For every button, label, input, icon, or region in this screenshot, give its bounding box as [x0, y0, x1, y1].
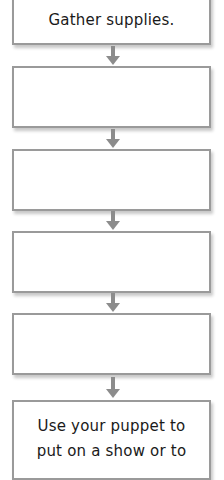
down-arrow-icon: [106, 293, 120, 313]
step-6-label: Use your puppet to put on a show or to: [37, 414, 187, 464]
down-arrow-icon: [106, 129, 120, 149]
down-arrow-icon: [106, 46, 120, 66]
down-arrow-icon: [106, 377, 120, 397]
step-box-1: Gather supplies.: [12, 0, 211, 45]
step-1-label: Gather supplies.: [48, 8, 174, 33]
step-box-4[interactable]: [12, 231, 211, 293]
step-6-line-2: put on a show or to: [37, 439, 187, 464]
step-6-line-1: Use your puppet to: [37, 414, 187, 439]
step-box-3[interactable]: [12, 149, 211, 211]
step-box-6: Use your puppet to put on a show or to: [12, 400, 211, 480]
step-box-5[interactable]: [12, 313, 211, 375]
down-arrow-icon: [106, 211, 120, 231]
step-box-2[interactable]: [12, 66, 211, 128]
